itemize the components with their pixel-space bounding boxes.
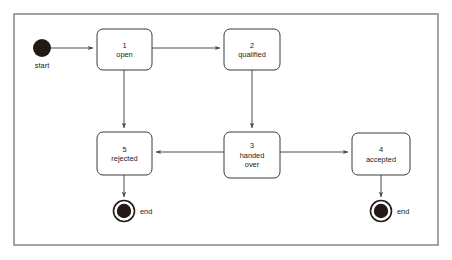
state-name-accepted: accepted [366,155,396,164]
state-number-rejected: 5 [122,145,126,154]
state-name-qualified: qualified [238,50,266,59]
state-name-open: open [116,50,132,59]
diagram-canvas: startendend 1open2qualified5rejected3han… [0,0,452,260]
state-name-rejected: rejected [111,154,137,163]
initial-state-node [33,39,51,57]
final-state-node-inner-end-2 [374,204,388,218]
state-number-open: 1 [122,41,126,50]
state-machine-diagram: startendend 1open2qualified5rejected3han… [0,0,452,260]
states-layer: 1open2qualified5rejected3handedover4acce… [97,29,410,178]
state-number-qualified: 2 [250,41,254,50]
final-state-label-end-2: end [397,207,409,216]
state-number-handed-over: 3 [250,141,254,150]
state-number-accepted: 4 [379,145,383,154]
initial-state-label: start [35,61,49,70]
state-name-handed-over: handed [240,151,265,160]
nodes-layer: startendend [33,39,409,222]
state-name-handed-over: over [245,160,260,169]
final-state-node-inner-end-1 [117,204,131,218]
final-state-label-end-1: end [140,207,152,216]
